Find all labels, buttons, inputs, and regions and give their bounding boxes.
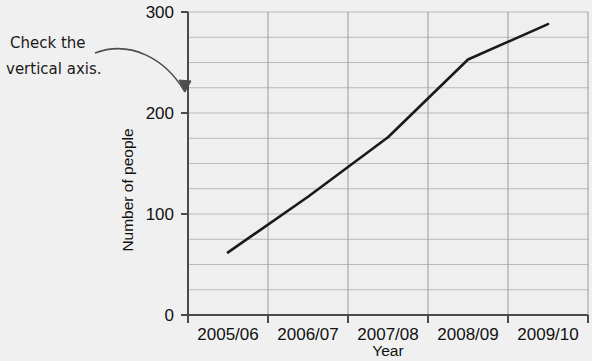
y-tick-label: 0 bbox=[165, 306, 174, 325]
line-chart-figure: 0100200300 2005/062006/072007/082008/092… bbox=[0, 0, 592, 361]
x-axis-title: Year bbox=[372, 342, 403, 359]
x-tick-label: 2009/10 bbox=[517, 325, 578, 344]
chart-canvas: 0100200300 2005/062006/072007/082008/092… bbox=[0, 0, 592, 361]
x-tick-label: 2006/07 bbox=[277, 325, 338, 344]
y-tick-label: 200 bbox=[146, 104, 174, 123]
annotation-line-2: vertical axis. bbox=[6, 60, 102, 78]
x-tick-label: 2005/06 bbox=[197, 325, 258, 344]
y-tick-label: 300 bbox=[146, 3, 174, 22]
y-tick-label: 100 bbox=[146, 205, 174, 224]
y-axis-title: Number of people bbox=[119, 128, 136, 251]
annotation-line-1: Check the bbox=[10, 34, 86, 52]
x-tick-label: 2008/09 bbox=[437, 325, 498, 344]
